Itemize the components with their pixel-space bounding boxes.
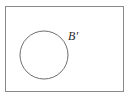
set-b-complement-label: B′: [68, 30, 78, 42]
diagram-canvas-svg: [0, 0, 132, 101]
set-b-circle: [20, 31, 68, 79]
set-diagram-figure: B′: [0, 0, 132, 101]
universal-set-rectangle: [6, 7, 124, 92]
